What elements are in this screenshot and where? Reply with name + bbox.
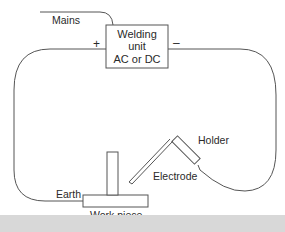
welding-unit-line3: AC or DC [113,53,160,66]
holder-label: Holder [198,135,229,146]
welding-unit-line1: Welding [117,28,157,41]
workpiece-plate [83,195,148,207]
minus-terminal-label: – [173,37,180,49]
welding-unit-line2: unit [128,40,146,53]
electrode-label: Electrode [153,171,197,182]
workpiece-upright [107,152,118,195]
holder [172,136,200,164]
plus-terminal-label: + [93,38,100,50]
earth-cable [14,49,106,201]
earth-label: Earth [56,189,81,200]
welding-unit-label: Welding unit AC or DC [106,25,168,68]
mains-label: Mains [52,15,80,26]
bottom-band [0,215,285,232]
